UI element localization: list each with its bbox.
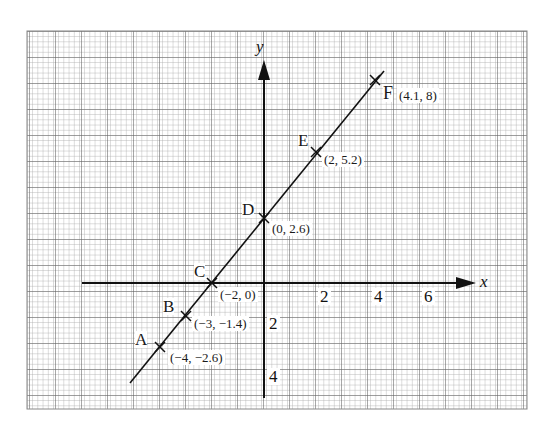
point-A-letter: A <box>135 331 147 348</box>
point-E-coord: (2, 5.2) <box>322 152 364 167</box>
y-tick-neg4: 4 <box>267 368 280 385</box>
graph-paper-plot <box>0 0 547 425</box>
point-C-letter: C <box>194 263 205 280</box>
point-E-letter: E <box>298 132 308 149</box>
point-D-coord: (0, 2.6) <box>270 221 312 236</box>
y-tick-neg2: 2 <box>267 315 280 332</box>
x-tick-6: 6 <box>422 288 435 305</box>
point-B-letter: B <box>163 298 174 315</box>
x-tick-2: 2 <box>318 288 331 305</box>
y-axis-label: y <box>256 38 264 55</box>
point-D-letter: D <box>242 201 254 218</box>
point-B-coord: (−3, −1.4) <box>192 316 249 331</box>
point-C-coord: (−2, 0) <box>218 287 258 302</box>
x-tick-4: 4 <box>372 288 385 305</box>
point-F-letter: F <box>383 84 393 102</box>
grid <box>27 31 527 409</box>
point-F-coord: (4.1, 8) <box>397 88 439 103</box>
x-axis-label: x <box>480 273 488 290</box>
point-A-coord: (−4, −2.6) <box>168 350 225 365</box>
